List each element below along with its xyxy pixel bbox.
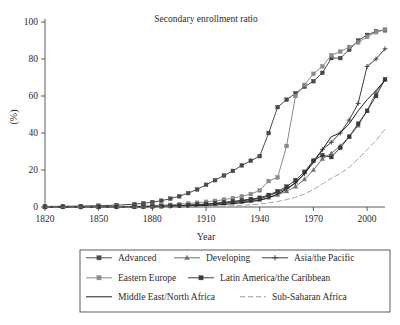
- data-point: [150, 200, 154, 204]
- chart-figure: Secondary enrollment ratio (%) Year 0204…: [0, 0, 400, 325]
- y-tick-label: 20: [29, 165, 39, 175]
- legend-marker: [97, 256, 101, 260]
- x-tick-label: 1880: [143, 214, 162, 224]
- x-axis: 1820185018801910194019702000: [36, 207, 386, 224]
- data-point: [320, 71, 324, 75]
- chart-title: Secondary enrollment ratio: [154, 14, 258, 24]
- data-point: [267, 193, 271, 197]
- data-point: [312, 79, 316, 83]
- y-tick-label: 60: [29, 91, 39, 101]
- data-point: [231, 200, 235, 204]
- series-advanced: [43, 28, 387, 208]
- legend-item-sub-saharan-africa[interactable]: Sub-Saharan Africa: [240, 292, 347, 302]
- data-point: [374, 94, 378, 98]
- data-point: [329, 155, 333, 159]
- data-point: [267, 131, 271, 135]
- data-point: [249, 197, 253, 201]
- data-point: [374, 30, 378, 34]
- x-tick-label: 1850: [89, 214, 108, 224]
- data-point: [249, 159, 253, 163]
- y-tick-label: 100: [24, 17, 39, 27]
- data-point: [186, 191, 190, 195]
- data-point: [213, 178, 217, 182]
- y-tick-label: 80: [29, 54, 39, 64]
- x-tick-label: 1970: [304, 214, 323, 224]
- legend-label: Middle East/North Africa: [118, 292, 216, 302]
- series-asia-the-pacific: [43, 46, 388, 209]
- data-point: [347, 135, 351, 139]
- data-point: [258, 188, 262, 192]
- legend-item-latin-america-the-caribbean[interactable]: Latin America/the Caribbean: [188, 273, 331, 283]
- data-point: [356, 40, 360, 44]
- data-point: [276, 176, 280, 180]
- data-point: [267, 179, 271, 183]
- data-point: [276, 189, 280, 193]
- data-point: [356, 122, 360, 126]
- data-point: [347, 45, 351, 49]
- legend-marker: [199, 276, 203, 280]
- data-point: [320, 65, 324, 69]
- legend-label: Asia/the Pacific: [294, 253, 354, 263]
- data-point: [285, 98, 289, 102]
- x-axis-label: Year: [197, 231, 216, 242]
- series-sub-saharan-africa: [45, 129, 385, 207]
- data-point: [320, 153, 324, 157]
- legend-label: Developing: [206, 253, 251, 263]
- legend-label: Latin America/the Caribbean: [220, 273, 331, 283]
- series-latin-america-the-caribbean: [43, 77, 387, 208]
- data-point: [177, 194, 181, 198]
- data-point: [356, 101, 361, 106]
- legend-label: Advanced: [118, 253, 157, 263]
- data-point: [258, 196, 262, 200]
- x-tick-label: 1940: [250, 214, 269, 224]
- data-point: [303, 83, 307, 87]
- series-lines: [43, 28, 388, 210]
- data-point: [222, 200, 226, 204]
- legend-item-asia-the-pacific[interactable]: Asia/the Pacific: [262, 253, 354, 263]
- series-developing: [43, 77, 387, 209]
- data-point: [294, 94, 298, 98]
- y-axis: 020406080100: [24, 17, 45, 212]
- data-point: [204, 183, 208, 187]
- data-point: [222, 174, 226, 178]
- data-point: [338, 50, 342, 54]
- y-tick-label: 40: [29, 128, 39, 138]
- chart-legend: AdvancedDevelopingAsia/the PacificEaster…: [80, 250, 390, 312]
- data-point: [168, 197, 172, 201]
- data-point: [258, 154, 262, 158]
- legend-item-advanced[interactable]: Advanced: [86, 253, 157, 263]
- data-point: [338, 56, 342, 60]
- x-tick-label: 1910: [197, 214, 216, 224]
- data-point: [249, 192, 253, 196]
- data-point: [240, 198, 244, 202]
- legend-marker: [97, 276, 101, 280]
- data-point: [365, 35, 369, 39]
- data-point: [240, 194, 244, 198]
- data-point: [231, 169, 235, 173]
- x-tick-label: 2000: [358, 214, 377, 224]
- x-tick-label: 1820: [36, 214, 55, 224]
- data-point: [285, 144, 289, 148]
- legend-marker: [272, 255, 277, 260]
- data-point: [329, 53, 333, 57]
- y-axis-label: (%): [8, 110, 20, 125]
- legend-item-eastern-europe[interactable]: Eastern Europe: [86, 273, 176, 283]
- data-point: [195, 188, 199, 192]
- secondary-enrollment-ratio-chart: Secondary enrollment ratio (%) Year 0204…: [0, 0, 400, 325]
- legend-item-developing[interactable]: Developing: [174, 253, 251, 263]
- legend-item-middle-east-north-africa[interactable]: Middle East/North Africa: [86, 292, 216, 302]
- data-point: [312, 72, 316, 76]
- data-point: [365, 109, 369, 113]
- legend-label: Sub-Saharan Africa: [272, 292, 347, 302]
- data-point: [240, 163, 244, 167]
- series-middle-east-north-africa: [45, 80, 385, 207]
- legend-label: Eastern Europe: [118, 273, 176, 283]
- data-point: [383, 28, 387, 32]
- y-tick-label: 0: [33, 202, 38, 212]
- data-point: [276, 105, 280, 109]
- data-point: [159, 199, 163, 203]
- data-point: [338, 146, 342, 150]
